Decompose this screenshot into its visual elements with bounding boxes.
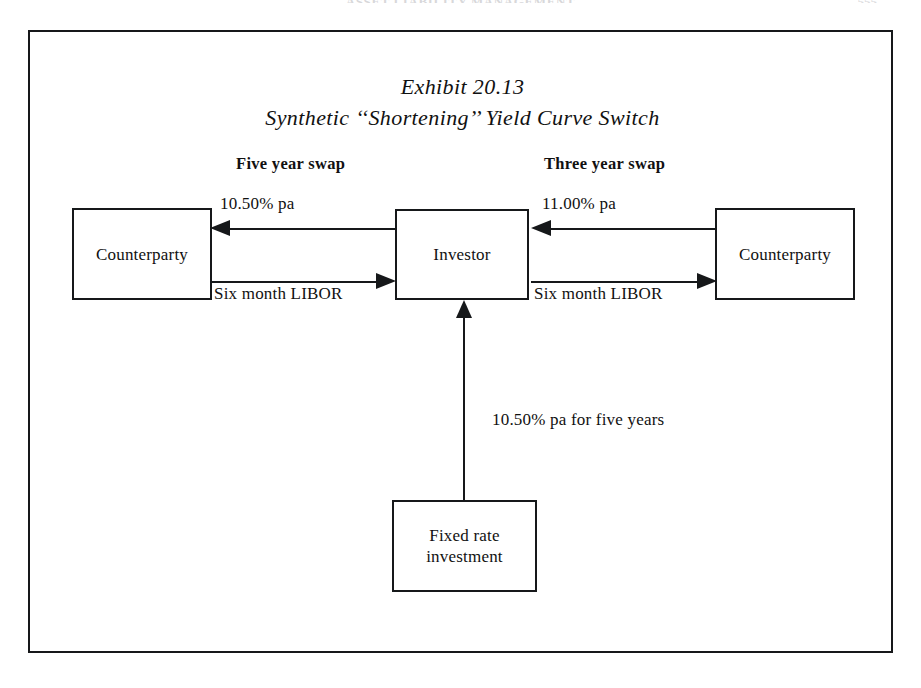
- flow-label-right-floating-rate: Six month LIBOR: [534, 284, 663, 304]
- left-swap-heading: Five year swap: [236, 154, 345, 174]
- page-number: 555: [858, 0, 878, 3]
- flow-arrowhead-left-floating: [376, 273, 396, 289]
- node-fixed-rate-investment: Fixed rate investment: [392, 500, 537, 592]
- flow-arrowhead-investment: [456, 300, 472, 318]
- running-header: ASSET LIABILITY MANAGEMENT: [0, 0, 921, 3]
- node-left-counterparty-label: Counterparty: [96, 244, 188, 265]
- exhibit-frame: Exhibit 20.13 Synthetic ‘‘Shortening’’ Y…: [28, 30, 893, 653]
- flow-label-left-floating-rate: Six month LIBOR: [214, 284, 343, 304]
- flow-arrowhead-right-floating: [697, 273, 717, 289]
- exhibit-number: Exhibit 20.13: [30, 72, 895, 102]
- node-investor: Investor: [395, 209, 529, 300]
- flow-arrowhead-right-fixed: [531, 220, 551, 236]
- flow-line-left-fixed: [228, 228, 396, 230]
- flow-line-investment: [463, 318, 465, 500]
- node-right-counterparty: Counterparty: [715, 208, 855, 300]
- node-fixed-rate-investment-label-line2: investment: [426, 547, 503, 566]
- flow-label-left-fixed-rate: 10.50% pa: [220, 194, 295, 214]
- flow-line-right-fixed: [549, 228, 717, 230]
- flow-label-investment-rate: 10.50% pa for five years: [492, 410, 664, 430]
- right-swap-heading: Three year swap: [544, 154, 665, 174]
- node-fixed-rate-investment-label-line1: Fixed rate: [429, 526, 499, 545]
- node-right-counterparty-label: Counterparty: [739, 244, 831, 265]
- flow-arrowhead-left-fixed: [210, 220, 230, 236]
- exhibit-page: ASSET LIABILITY MANAGEMENT 555 Exhibit 2…: [0, 0, 921, 688]
- exhibit-title-block: Exhibit 20.13 Synthetic ‘‘Shortening’’ Y…: [30, 72, 895, 134]
- flow-label-right-fixed-rate: 11.00% pa: [542, 194, 616, 214]
- flow-line-left-floating: [210, 281, 378, 283]
- node-investor-label: Investor: [433, 244, 490, 265]
- node-left-counterparty: Counterparty: [72, 208, 212, 300]
- exhibit-title: Synthetic ‘‘Shortening’’ Yield Curve Swi…: [30, 102, 895, 134]
- flow-line-right-floating: [531, 281, 699, 283]
